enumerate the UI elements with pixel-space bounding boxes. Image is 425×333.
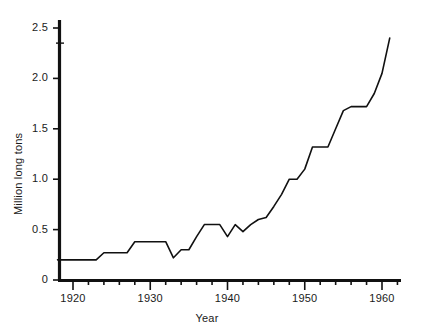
x-tick-label: 1950 xyxy=(275,292,335,304)
x-tick-label: 1920 xyxy=(43,292,103,304)
y-tick-label: 1.0 xyxy=(0,172,48,184)
chart-canvas xyxy=(0,0,425,333)
chart-figure: 00.51.01.52.02.5 19201930194019501960 Mi… xyxy=(0,0,425,333)
x-axis-title: Year xyxy=(177,312,237,324)
y-tick-label: 2.0 xyxy=(0,71,48,83)
y-tick-label: 0 xyxy=(0,273,48,285)
y-tick-label: 0.5 xyxy=(0,223,48,235)
x-tick-label: 1930 xyxy=(120,292,180,304)
y-tick-label: 2.5 xyxy=(0,21,48,33)
data-line-series-production xyxy=(58,38,390,260)
axes xyxy=(58,20,401,281)
x-tick-label: 1940 xyxy=(198,292,258,304)
x-tick-label: 1960 xyxy=(352,292,412,304)
y-tick-label: 1.5 xyxy=(0,122,48,134)
y-axis-title: Million long tons xyxy=(12,133,24,215)
